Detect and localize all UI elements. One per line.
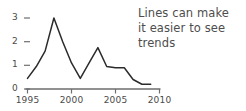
annotation-line-2: it easier to see (138, 21, 244, 36)
y-tick-label-3: 3 (4, 12, 18, 22)
data-line-trend (28, 18, 151, 84)
x-tick-label-2010: 2010 (143, 95, 177, 105)
x-tick-label-2000: 2000 (55, 95, 89, 105)
annotation-line-3: trends (138, 36, 244, 51)
x-tick-label-2005: 2005 (99, 95, 133, 105)
trend-note-annotation: Lines can make it easier to see trends (138, 6, 244, 51)
annotation-line-1: Lines can make (138, 6, 244, 21)
y-tick-label-2: 2 (4, 36, 18, 46)
line-chart-figure: 3 2 1 0 1995 2000 2005 2010 Lines can ma… (0, 0, 246, 111)
y-tick-label-0: 0 (4, 83, 18, 93)
y-tick-label-1: 1 (4, 59, 18, 69)
x-tick-label-1995: 1995 (11, 95, 45, 105)
